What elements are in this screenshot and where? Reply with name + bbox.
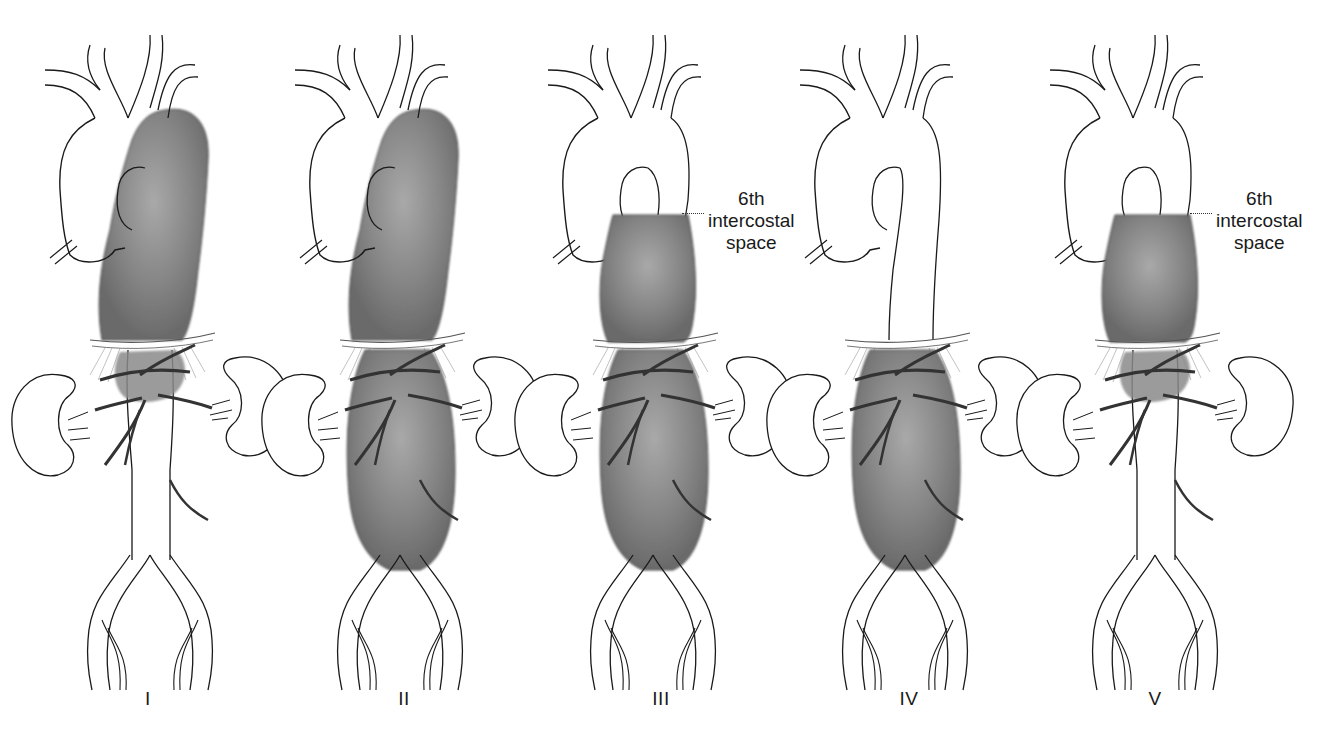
panel-II bbox=[262, 35, 538, 690]
panel-IV bbox=[767, 35, 1043, 690]
leader-line bbox=[1190, 213, 1212, 214]
panel-label-II: II bbox=[398, 688, 410, 710]
panel-label-III: III bbox=[652, 688, 669, 710]
panel-III bbox=[515, 35, 791, 690]
aneurysm-thoracic bbox=[349, 109, 458, 340]
aneurysm-thoracic bbox=[600, 215, 695, 342]
aneurysm-abdominal bbox=[600, 350, 708, 570]
aneurysm-thoracic bbox=[99, 109, 208, 340]
aneurysm-abdominal bbox=[347, 350, 455, 570]
aneurysm-classification-figure bbox=[0, 0, 1338, 733]
panel-label-V: V bbox=[1148, 688, 1161, 710]
annotation-6th-intercostal-V: 6th intercostal space bbox=[1216, 188, 1303, 254]
panel-label-I: I bbox=[145, 688, 151, 710]
panel-label-IV: IV bbox=[900, 688, 919, 710]
annotation-6th-intercostal-III: 6th intercostal space bbox=[708, 188, 795, 254]
panel-I bbox=[12, 35, 288, 690]
panel-V bbox=[1017, 35, 1293, 690]
aneurysm-abdominal bbox=[852, 350, 960, 570]
leader-line bbox=[682, 213, 704, 214]
aneurysm-thoracic bbox=[1102, 215, 1197, 342]
